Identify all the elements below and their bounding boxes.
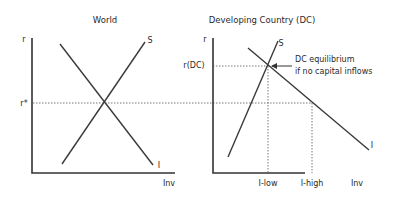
dc-savings-curve: [228, 41, 278, 157]
annotation-line1: DC equilibrium: [295, 55, 355, 64]
world-savings-label: S: [147, 36, 152, 45]
world-rate-label: r*: [20, 99, 27, 108]
diagram-canvas: World r r* Inv S I Developing Country (D…: [0, 0, 393, 198]
dc-x-axis-label: Inv: [351, 179, 363, 188]
world-x-axis-label: Inv: [163, 179, 175, 188]
world-axes: [32, 38, 175, 173]
dc-savings-label: S: [278, 39, 283, 48]
world-investment-label: I: [158, 161, 160, 170]
dc-y-axis-label: r: [203, 35, 207, 44]
world-panel: World r r* Inv S I: [20, 15, 175, 188]
dc-axes: [213, 38, 305, 173]
i-high-tick-label: I-high: [301, 179, 324, 188]
dc-title: Developing Country (DC): [209, 15, 315, 25]
annotation-line2: if no capital inflows: [295, 67, 372, 76]
world-title: World: [93, 15, 117, 25]
i-low-tick-label: I-low: [259, 179, 278, 188]
world-y-axis-label: r: [22, 35, 26, 44]
dc-panel: Developing Country (DC) r r(DC) S I DC e…: [183, 15, 373, 188]
dc-investment-label: I: [371, 141, 373, 150]
dc-rate-label: r(DC): [183, 61, 204, 70]
